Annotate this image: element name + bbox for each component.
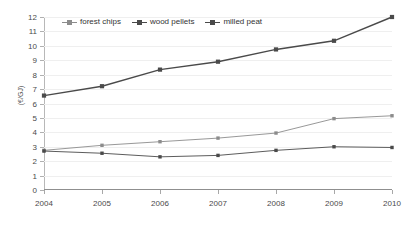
series-line	[44, 116, 392, 151]
legend-item-milled-peat[interactable]: milled peat	[205, 18, 262, 26]
data-point	[274, 47, 278, 51]
x-axis-tick	[334, 190, 335, 194]
legend-marker-icon	[205, 19, 220, 26]
legend-marker-icon	[62, 19, 77, 26]
data-point	[42, 149, 45, 152]
y-axis-tick-label: 4	[33, 128, 37, 137]
y-axis-tick-label: 3	[33, 142, 37, 151]
data-point	[158, 155, 161, 158]
y-axis-title: (€/GJ)	[17, 66, 24, 126]
x-axis-tick-label: 2008	[267, 199, 285, 208]
series-plot	[44, 17, 392, 190]
data-point	[100, 152, 103, 155]
x-axis-tick	[102, 190, 103, 194]
data-point	[390, 15, 394, 19]
y-axis-tick-label: 10	[28, 41, 37, 50]
legend-item-forest-chips[interactable]: forest chips	[62, 18, 121, 26]
legend-marker-icon	[132, 19, 147, 26]
y-axis-tick-label: 6	[33, 99, 37, 108]
y-axis-tick-label: 9	[33, 56, 37, 65]
series-milled-peat	[42, 145, 393, 158]
x-axis-tick	[276, 190, 277, 194]
x-axis-tick-label: 2004	[35, 199, 53, 208]
x-axis-tick	[218, 190, 219, 194]
data-point	[100, 84, 104, 88]
legend: forest chipswood pelletsmilled peat	[62, 18, 262, 26]
data-point	[274, 149, 277, 152]
x-axis-tick	[392, 190, 393, 194]
x-axis-tick-label: 2007	[209, 199, 227, 208]
y-axis-tick-label: 5	[33, 113, 37, 122]
data-point	[158, 140, 161, 143]
data-point	[216, 136, 219, 139]
plot-area: 0123456789101112 20042005200620072008200…	[44, 17, 392, 190]
y-axis-tick-label: 2	[33, 157, 37, 166]
data-point	[274, 131, 277, 134]
y-axis-tick-label: 8	[33, 70, 37, 79]
data-point	[332, 117, 335, 120]
series-line	[44, 17, 392, 96]
y-axis-tick-label: 11	[29, 27, 37, 36]
y-axis-tick-label: 12	[28, 13, 37, 22]
legend-item-wood-pellets[interactable]: wood pellets	[132, 18, 194, 26]
data-point	[216, 60, 220, 64]
line-chart: (€/GJ) 0123456789101112 2004200520062007…	[0, 0, 402, 230]
data-point	[42, 93, 46, 97]
data-point	[390, 146, 393, 149]
legend-label: forest chips	[80, 18, 121, 26]
data-point	[332, 145, 335, 148]
data-point	[158, 68, 162, 72]
legend-label: wood pellets	[150, 18, 194, 26]
y-axis-tick-label: 7	[33, 85, 37, 94]
y-axis-tick-label: 0	[33, 186, 37, 195]
data-point	[100, 144, 103, 147]
series-forest-chips	[42, 114, 393, 152]
x-axis-tick-label: 2006	[151, 199, 169, 208]
y-axis-tick-label: 1	[33, 171, 37, 180]
x-axis-tick-label: 2010	[383, 199, 401, 208]
legend-label: milled peat	[223, 18, 262, 26]
series-wood-pellets	[42, 15, 394, 98]
data-point	[390, 114, 393, 117]
x-axis-tick	[44, 190, 45, 194]
data-point	[216, 154, 219, 157]
data-point	[332, 39, 336, 43]
x-axis-tick-label: 2009	[325, 199, 343, 208]
x-axis-tick-label: 2005	[93, 199, 111, 208]
x-axis-tick	[160, 190, 161, 194]
